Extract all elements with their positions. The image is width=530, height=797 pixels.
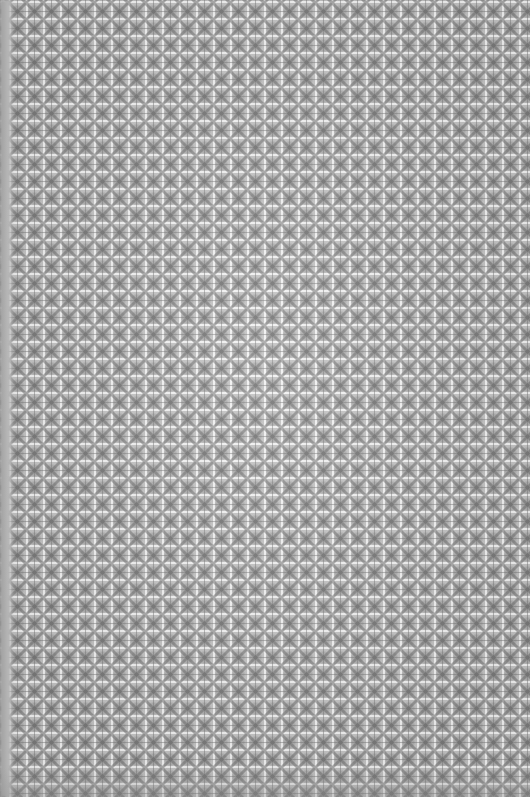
patterned-tile-surface <box>0 0 530 797</box>
left-edge-shadow-band <box>0 0 14 797</box>
bottom-edge-shade <box>0 767 530 797</box>
